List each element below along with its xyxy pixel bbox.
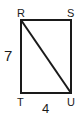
- rectangle-diagram: R S T U 7 4: [0, 0, 78, 117]
- vertex-label-u: U: [67, 96, 75, 108]
- diagonal-ru: [21, 20, 71, 93]
- side-length-left: 7: [4, 47, 12, 64]
- vertex-label-t: T: [17, 96, 24, 108]
- side-length-bottom: 4: [42, 101, 49, 116]
- vertex-label-s: S: [67, 7, 74, 19]
- vertex-label-r: R: [17, 7, 25, 19]
